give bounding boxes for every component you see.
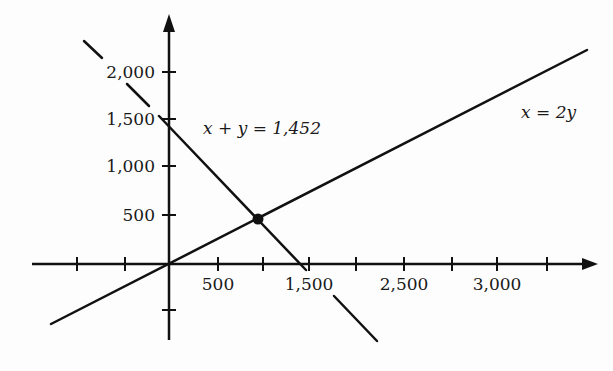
y-tick-label-2000: 2,000 (106, 62, 155, 82)
equation-label-x-equals-2y: x = 2y (521, 102, 576, 122)
y-tick-label-1500: 1,500 (106, 109, 155, 129)
intersection-point (253, 214, 264, 225)
y-axis-arrow-icon (163, 14, 175, 32)
y-tick-label-500: 500 (123, 205, 155, 225)
equation-label-x-plus-y: x + y = 1,452 (203, 118, 321, 138)
x-tick-label-3000: 3,000 (473, 274, 522, 294)
x-axis-arrow-icon (582, 258, 598, 270)
x-tick-label-500: 500 (202, 274, 234, 294)
coordinate-plane: 2,000 1,500 1,000 500 500 1,500 2,500 3,… (0, 0, 613, 371)
line-x-plus-y (84, 41, 377, 341)
x-tick-label-1500: 1,500 (285, 274, 334, 294)
x-tick-label-2500: 2,500 (380, 274, 429, 294)
y-tick-label-1000: 1,000 (106, 156, 155, 176)
